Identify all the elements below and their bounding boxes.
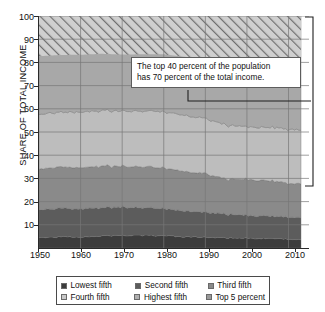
y-axis-tick (34, 132, 38, 133)
legend-swatch-icon (135, 283, 141, 289)
legend-swatch-icon (206, 294, 212, 300)
chart-figure: SHARE OF TOTAL INCOME 100 90 80 70 60 50… (0, 0, 325, 312)
chart-legend: Lowest fifth Second fifth Third fifth Fo… (56, 276, 270, 305)
y-axis-tick (34, 155, 38, 156)
y-axis-tick (34, 62, 38, 63)
x-tick-label: 1980 (157, 250, 177, 260)
y-tick-label: 20 (8, 198, 34, 207)
y-axis-tick (34, 39, 38, 40)
annotation-line-1: The top 40 percent of the population (137, 61, 295, 72)
legend-label: Highest fifth (144, 293, 187, 302)
legend-swatch-icon (61, 294, 67, 300)
x-tick-label: 2000 (242, 250, 262, 260)
legend-label: Lowest fifth (71, 281, 112, 290)
legend-item-third-fifth[interactable]: Third fifth (208, 281, 265, 290)
y-tick-label: 100 (8, 13, 34, 22)
y-tick-label: 60 (8, 105, 34, 114)
y-tick-label: 30 (8, 175, 34, 184)
x-tick-label: 1960 (71, 250, 91, 260)
legend-row: Lowest fifth Second fifth Third fifth (61, 280, 265, 292)
x-axis-tick-labels: 1950 1960 1970 1980 1990 2000 2010 (0, 250, 325, 266)
legend-swatch-icon (61, 283, 67, 289)
legend-label: Third fifth (217, 281, 251, 290)
legend-label: Fourth fifth (71, 293, 110, 302)
y-tick-label: 80 (8, 59, 34, 68)
legend-item-top-5-percent[interactable]: Top 5 percent (206, 293, 265, 302)
legend-label: Second fifth (145, 281, 188, 290)
plot-area (38, 16, 309, 249)
y-axis-tick (34, 225, 38, 226)
y-tick-label: 10 (8, 221, 34, 230)
legend-label: Top 5 percent (215, 293, 265, 302)
legend-swatch-icon (208, 283, 214, 289)
y-tick-label: 70 (8, 82, 34, 91)
legend-item-lowest-fifth[interactable]: Lowest fifth (61, 281, 135, 290)
x-tick-label: 2010 (285, 250, 305, 260)
x-tick-label: 1950 (30, 250, 50, 260)
legend-swatch-icon (134, 294, 140, 300)
y-tick-label: 90 (8, 36, 34, 45)
y-axis-tick (34, 16, 38, 17)
legend-item-highest-fifth[interactable]: Highest fifth (134, 293, 206, 302)
annotation-line-2: has 70 percent of the total income. (137, 72, 295, 83)
x-tick-label: 1970 (114, 250, 134, 260)
x-tick-label: 1990 (199, 250, 219, 260)
y-axis-tick-labels: 100 90 80 70 60 50 40 30 20 10 (4, 0, 34, 260)
y-axis-tick (34, 109, 38, 110)
annotation-callout: The top 40 percent of the population has… (131, 57, 301, 88)
stacked-area-series (39, 16, 309, 248)
y-axis-tick (34, 178, 38, 179)
legend-row: Fourth fifth Highest fifth Top 5 percent (61, 292, 265, 304)
legend-item-second-fifth[interactable]: Second fifth (135, 281, 207, 290)
legend-item-fourth-fifth[interactable]: Fourth fifth (61, 293, 134, 302)
y-axis-tick (34, 86, 38, 87)
y-tick-label: 40 (8, 152, 34, 161)
y-axis-tick (34, 202, 38, 203)
y-tick-label: 50 (8, 129, 34, 138)
